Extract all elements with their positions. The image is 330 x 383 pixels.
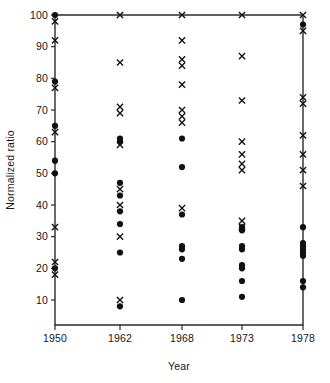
y-tick-label: 30	[36, 230, 48, 242]
data-point-cross	[179, 113, 185, 119]
data-point-cross	[239, 151, 245, 157]
data-point-circle	[239, 265, 245, 271]
data-point-circle	[239, 227, 245, 233]
data-point-circle	[117, 249, 123, 255]
data-point-cross	[179, 120, 185, 126]
data-point-cross	[117, 297, 123, 303]
data-point-cross	[239, 139, 245, 145]
y-tick-label: 20	[36, 262, 48, 274]
data-point-cross	[117, 110, 123, 116]
data-point-circle	[179, 246, 185, 252]
data-point-circle	[52, 123, 58, 129]
data-points-layer	[52, 12, 306, 310]
data-point-circle	[179, 211, 185, 217]
x-tick-label: 1973	[230, 332, 254, 344]
data-point-cross	[117, 186, 123, 192]
data-point-circle	[117, 139, 123, 145]
data-point-circle	[300, 253, 306, 259]
y-tick-label: 70	[36, 104, 48, 116]
y-tick-label: 50	[36, 167, 48, 179]
data-point-cross	[239, 97, 245, 103]
x-axis: 19501962196819731978	[43, 325, 315, 344]
x-tick-label: 1978	[291, 332, 315, 344]
data-point-cross	[117, 202, 123, 208]
data-point-cross	[117, 234, 123, 240]
data-point-circle	[300, 224, 306, 230]
data-point-circle	[239, 294, 245, 300]
y-tick-label: 90	[36, 40, 48, 52]
data-point-cross	[239, 161, 245, 167]
data-point-circle	[52, 265, 58, 271]
data-point-circle	[300, 278, 306, 284]
data-point-circle	[117, 303, 123, 309]
x-tick-label: 1950	[43, 332, 67, 344]
data-point-cross	[179, 56, 185, 62]
data-point-circle	[117, 180, 123, 186]
data-point-cross	[179, 37, 185, 43]
x-axis-title: Year	[168, 360, 190, 372]
scatter-plot-figure: 102030405060708090100 195019621968197319…	[0, 0, 330, 383]
data-point-cross	[239, 218, 245, 224]
data-point-circle	[117, 208, 123, 214]
data-point-circle	[300, 284, 306, 290]
y-tick-label: 100	[30, 9, 48, 21]
data-point-cross	[117, 104, 123, 110]
data-point-cross	[179, 205, 185, 211]
y-tick-label: 40	[36, 199, 48, 211]
data-point-circle	[52, 78, 58, 84]
x-tick-label: 1968	[170, 332, 194, 344]
data-point-circle	[239, 278, 245, 284]
data-point-circle	[52, 158, 58, 164]
y-tick-label: 10	[36, 294, 48, 306]
data-point-circle	[300, 21, 306, 27]
y-tick-label: 60	[36, 135, 48, 147]
data-point-cross	[239, 53, 245, 59]
data-point-cross	[179, 63, 185, 69]
data-point-circle	[179, 297, 185, 303]
data-point-cross	[239, 167, 245, 173]
chart-canvas: 102030405060708090100 195019621968197319…	[0, 0, 330, 383]
data-point-cross	[179, 107, 185, 113]
data-point-circle	[52, 170, 58, 176]
y-axis: 102030405060708090100	[30, 9, 55, 306]
data-point-circle	[179, 135, 185, 141]
data-point-circle	[239, 246, 245, 252]
y-axis-title: Normalized ratio	[4, 130, 16, 210]
data-point-circle	[179, 164, 185, 170]
data-point-circle	[117, 192, 123, 198]
data-point-cross	[117, 59, 123, 65]
data-point-circle	[117, 221, 123, 227]
data-point-cross	[179, 82, 185, 88]
data-point-circle	[179, 256, 185, 262]
y-tick-label: 80	[36, 72, 48, 84]
x-tick-label: 1962	[108, 332, 132, 344]
data-point-circle	[52, 12, 58, 18]
